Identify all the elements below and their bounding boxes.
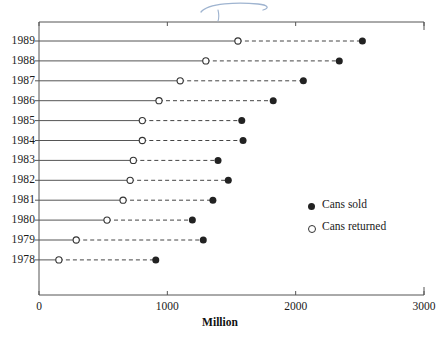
y-tick-label-1988: 1988 [1, 54, 35, 66]
legend-label-cans-sold: Cans sold [322, 198, 367, 210]
y-tick-label-1985: 1985 [1, 114, 35, 126]
y-tick-label-1987: 1987 [1, 74, 35, 86]
legend-marker-cans-returned [308, 225, 316, 233]
y-tick-label-1989: 1989 [1, 34, 35, 46]
y-tick-label-1981: 1981 [1, 193, 35, 205]
y-tick-label-1980: 1980 [1, 213, 35, 225]
x-tick-label-0: 0 [14, 300, 64, 312]
legend-marker-cans-sold [308, 203, 315, 210]
handwritten-scribble-icon [201, 3, 267, 12]
y-tick-label-1979: 1979 [1, 233, 35, 245]
y-tick-label-1978: 1978 [1, 253, 35, 265]
y-tick-label-1982: 1982 [1, 173, 35, 185]
legend-label-cans-returned: Cans returned [322, 220, 386, 232]
x-tick-label-2000: 2000 [271, 300, 321, 312]
y-tick-label-1984: 1984 [1, 134, 35, 146]
x-axis-title: Million [160, 316, 280, 328]
handwritten-tick-icon [218, 10, 219, 21]
x-tick-label-1000: 1000 [142, 300, 192, 312]
chart-plot-area [0, 0, 441, 338]
x-tick-label-3000: 3000 [399, 300, 441, 312]
chart-container: 1989198819871986198519841983198219811980… [0, 0, 441, 338]
y-tick-label-1986: 1986 [1, 94, 35, 106]
y-tick-label-1983: 1983 [1, 153, 35, 165]
